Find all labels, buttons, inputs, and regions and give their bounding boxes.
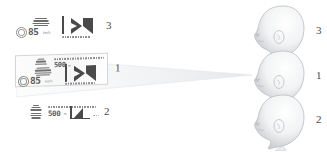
speed-value-middle: 85 xyxy=(30,76,41,86)
overhead-gantry-icon xyxy=(34,58,48,66)
figure-canvas: 85 km/h 3 xyxy=(0,0,327,153)
panel-index-middle: 1 xyxy=(115,62,121,73)
overhead-gantry-icon xyxy=(30,113,42,120)
stimulus-panel-bottom[interactable]: 500 m 2 xyxy=(30,104,116,124)
speed-unit-middle: km/h xyxy=(45,80,52,84)
panel-caption-bottom xyxy=(93,115,99,116)
head-profile-icon[interactable] xyxy=(249,93,307,151)
header-value-middle: 500 xyxy=(54,62,65,69)
panel-caption-top xyxy=(62,36,91,38)
circular-roundel-icon xyxy=(18,76,29,87)
overhead-gantry-icon xyxy=(30,105,42,112)
bar-chart-glyph-icon xyxy=(62,18,92,34)
speed-value-top: 85 xyxy=(28,27,39,37)
speed-unit-bottom: m xyxy=(64,113,67,116)
head-stack: 3 1 xyxy=(240,4,327,150)
head-index-bottom: 2 xyxy=(316,114,322,125)
head-index-top: 3 xyxy=(316,25,322,36)
panel-index-top: 3 xyxy=(106,20,112,31)
speed-unit-top: km/h xyxy=(43,32,50,35)
bar-chart-glyph-icon xyxy=(65,65,95,82)
panel-header-rule-middle xyxy=(54,57,104,60)
speed-value-bottom: 500 xyxy=(48,110,60,118)
stimulus-panel-top[interactable]: 85 km/h 3 xyxy=(16,17,102,39)
bar-chart-glyph-icon xyxy=(70,108,92,119)
stimulus-panel-middle[interactable]: 500 m 85 km/h 1 xyxy=(15,53,108,88)
panel-index-bottom: 2 xyxy=(104,106,110,117)
head-index-middle: 1 xyxy=(316,70,322,81)
panel-caption-middle xyxy=(65,82,95,85)
circular-roundel-icon xyxy=(16,27,27,38)
